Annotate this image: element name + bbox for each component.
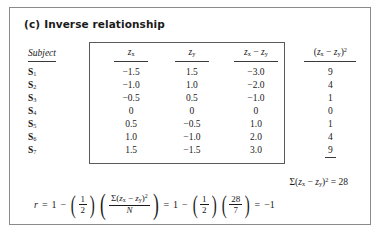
table-row: S7 1.5 −1.5 3.0 9 bbox=[10, 145, 372, 159]
paren-right: ) bbox=[153, 194, 159, 215]
formula-twentyeight-sevenths-group: ( 28 7 ) bbox=[220, 195, 252, 215]
caption-text: Inverse relationship bbox=[44, 18, 165, 30]
subject-index: 1 bbox=[33, 70, 36, 77]
header-label-z-difference: zx − zy bbox=[234, 47, 278, 62]
header-label-subject: Subject bbox=[28, 48, 56, 62]
figure-frame: (c)Inverse relationship Subject zx zy bbox=[9, 7, 371, 225]
paren-right: ) bbox=[90, 196, 95, 214]
formula-sum-over-n: Σ(zx − zy)2 N bbox=[109, 194, 150, 215]
sq-exponent: 2 bbox=[344, 46, 347, 53]
sq-minus: − bbox=[324, 47, 334, 57]
sum-over-n-denominator: N bbox=[124, 206, 134, 216]
row-subject-label: S6 bbox=[10, 132, 102, 145]
paren-right: ) bbox=[211, 196, 216, 214]
caption-letter: (c) bbox=[24, 18, 40, 30]
row-subject-label: S5 bbox=[10, 119, 102, 132]
row-subject-label: S3 bbox=[10, 93, 102, 106]
row-subject-label: S1 bbox=[10, 64, 102, 80]
column-header-zy: zy bbox=[161, 42, 224, 64]
column-header-z-difference-squared: (zx − zy)2 bbox=[289, 42, 372, 64]
table-row: S3 −0.5 0.5 −1.0 1 bbox=[10, 93, 372, 106]
cell-zy: 1.5 bbox=[161, 64, 224, 80]
paren-right: ) bbox=[245, 196, 250, 214]
formula-equals-3: = bbox=[255, 199, 261, 210]
sum-value: 28 bbox=[339, 177, 349, 187]
figure-caption: (c)Inverse relationship bbox=[24, 18, 165, 30]
cell-z-difference-squared: 1 bbox=[289, 119, 372, 132]
cell-z-difference: −2.0 bbox=[223, 80, 288, 93]
row-subject-label: S7 bbox=[10, 145, 102, 159]
subject-index: 2 bbox=[33, 83, 36, 90]
cell-zx: 1.5 bbox=[102, 145, 161, 159]
table-row: S2 −1.0 1.0 −2.0 4 bbox=[10, 80, 372, 93]
subject-index: 4 bbox=[33, 109, 36, 116]
cell-z-difference: 0 bbox=[223, 106, 288, 119]
formula-minus-a: − bbox=[61, 199, 67, 210]
table-row: S4 0 0 0 0 bbox=[10, 106, 372, 119]
subject-index: 3 bbox=[33, 96, 36, 103]
cell-zx: 1.0 bbox=[102, 132, 161, 145]
num-minus: − bbox=[126, 193, 136, 203]
table-row: S5 0.5 −0.5 1.0 1 bbox=[10, 119, 372, 132]
subject-index: 7 bbox=[33, 148, 36, 155]
paren-left: ( bbox=[192, 196, 197, 214]
half-denominator-a: 2 bbox=[79, 205, 88, 215]
cell-z-difference: −3.0 bbox=[223, 64, 288, 80]
cell-zy: −1.5 bbox=[161, 145, 224, 159]
cell-zy: 0.5 bbox=[161, 93, 224, 106]
table-header-row: Subject zx zy zx − zy (zx − zy)2 bbox=[10, 42, 372, 64]
table-header: Subject zx zy zx − zy (zx − zy)2 bbox=[10, 42, 372, 64]
header-label-zx: zx bbox=[114, 47, 148, 62]
paren-left: ( bbox=[100, 194, 106, 215]
cell-zx: 0.5 bbox=[102, 119, 161, 132]
diff-minus: − bbox=[251, 47, 261, 57]
formula-equals-2: = bbox=[163, 199, 169, 210]
paren-left: ( bbox=[222, 196, 227, 214]
formula-sum-over-n-group: ( Σ(zx − zy)2 N ) bbox=[98, 194, 160, 215]
cell-zy: −0.5 bbox=[161, 119, 224, 132]
formula-half-group-a: ( 1 2 ) bbox=[69, 195, 96, 215]
fraction-numerator-28: 28 bbox=[229, 195, 242, 206]
cell-zy: −1.0 bbox=[161, 132, 224, 145]
half-numerator-b: 1 bbox=[200, 195, 209, 206]
diff-sub2: y bbox=[265, 50, 268, 57]
zy-subscript: y bbox=[192, 50, 195, 57]
sum-minus: − bbox=[305, 177, 315, 187]
formula-half-b: 1 2 bbox=[200, 195, 209, 215]
formula-result: −1 bbox=[264, 199, 275, 210]
cell-zx: −0.5 bbox=[102, 93, 161, 106]
cell-z-difference-squared: 0 bbox=[289, 106, 372, 119]
column-header-subject: Subject bbox=[10, 42, 102, 64]
cell-zy: 0 bbox=[161, 106, 224, 119]
column-header-zx: zx bbox=[102, 42, 161, 64]
cell-z-difference-squared: 9 bbox=[289, 145, 372, 159]
table-body: S1 −1.5 1.5 −3.0 9 S2 −1.0 1.0 −2.0 4 S3… bbox=[10, 64, 372, 158]
row-subject-label: S4 bbox=[10, 106, 102, 119]
formula-twentyeight-sevenths: 28 7 bbox=[229, 195, 242, 215]
half-denominator-b: 2 bbox=[200, 205, 209, 215]
sum-of-squared-differences: Σ(zx − zy)2 = 28 bbox=[10, 176, 372, 187]
correlation-formula: r = 1 − ( 1 2 ) ( Σ(zx − zy)2 N ) = 1 − … bbox=[32, 194, 277, 215]
cell-z-difference: 1.0 bbox=[223, 119, 288, 132]
sum-over-n-numerator: Σ(zx − zy)2 bbox=[109, 194, 150, 206]
table-row: S6 1.0 −1.0 2.0 4 bbox=[10, 132, 372, 145]
formula-one-b: 1 bbox=[173, 199, 178, 210]
cell-z-difference-squared: 4 bbox=[289, 80, 372, 93]
formula-equals-1: = bbox=[42, 199, 48, 210]
header-label-z-difference-squared: (zx − zy)2 bbox=[304, 44, 356, 62]
cell-zx: −1.5 bbox=[102, 64, 161, 80]
num-exponent: 2 bbox=[145, 193, 148, 199]
cell-z-difference: 2.0 bbox=[223, 132, 288, 145]
cell-z-difference-squared: 9 bbox=[289, 64, 372, 80]
data-table-area: Subject zx zy zx − zy (zx − zy)2 bbox=[10, 42, 372, 177]
formula-minus-b: − bbox=[182, 199, 188, 210]
header-label-zy: zy bbox=[175, 47, 209, 62]
cell-z-difference: 3.0 bbox=[223, 145, 288, 159]
row-subject-label: S2 bbox=[10, 80, 102, 93]
column-header-z-difference: zx − zy bbox=[223, 42, 288, 64]
formula-half-group-b: ( 1 2 ) bbox=[191, 195, 218, 215]
table-row: S1 −1.5 1.5 −3.0 9 bbox=[10, 64, 372, 80]
cell-z-difference-squared: 4 bbox=[289, 132, 372, 145]
sum-equals: = bbox=[328, 177, 338, 187]
cell-z-difference-squared-total-rule: 9 bbox=[325, 145, 336, 159]
